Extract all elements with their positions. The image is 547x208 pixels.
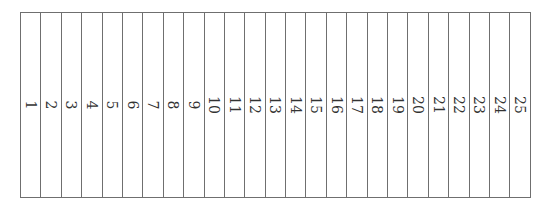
table-cell: 20 <box>408 13 428 198</box>
table-cell: 13 <box>265 13 285 198</box>
column-label: 20 <box>411 96 425 114</box>
numbered-columns-table: 1 2 3 4 5 6 7 8 9 10 11 12 13 14 15 16 1… <box>20 12 531 198</box>
table-cell: 1 <box>21 13 41 198</box>
table-cell: 22 <box>449 13 469 198</box>
table-cell: 24 <box>489 13 509 198</box>
column-label: 11 <box>228 96 242 114</box>
table-cell: 4 <box>82 13 102 198</box>
table-cell: 16 <box>326 13 346 198</box>
table-cell: 3 <box>61 13 81 198</box>
column-label: 22 <box>452 96 466 114</box>
table-cell: 10 <box>204 13 224 198</box>
table-cell: 23 <box>469 13 489 198</box>
column-label: 12 <box>248 96 262 114</box>
column-label: 24 <box>493 96 507 114</box>
table-cell: 12 <box>245 13 265 198</box>
table-row: 1 2 3 4 5 6 7 8 9 10 11 12 13 14 15 16 1… <box>21 13 531 198</box>
column-label: 15 <box>309 96 323 114</box>
column-label: 3 <box>64 101 78 110</box>
column-label: 14 <box>289 96 303 114</box>
table-cell: 17 <box>347 13 367 198</box>
column-label: 21 <box>432 96 446 114</box>
column-label: 10 <box>207 96 221 114</box>
table-cell: 11 <box>224 13 244 198</box>
column-label: 17 <box>350 96 364 114</box>
column-label: 8 <box>166 101 180 110</box>
column-label: 25 <box>513 96 527 114</box>
table-cell: 25 <box>510 13 531 198</box>
column-label: 5 <box>105 101 119 110</box>
table-cell: 2 <box>41 13 61 198</box>
column-label: 9 <box>187 101 201 110</box>
column-label: 18 <box>370 96 384 114</box>
column-label: 19 <box>391 96 405 114</box>
table-cell: 9 <box>184 13 204 198</box>
table-cell: 14 <box>286 13 306 198</box>
column-label: 13 <box>268 96 282 114</box>
table-cell: 18 <box>367 13 387 198</box>
column-label: 6 <box>126 101 140 110</box>
column-label: 23 <box>472 96 486 114</box>
table-cell: 7 <box>143 13 163 198</box>
table-cell: 21 <box>428 13 448 198</box>
column-label: 16 <box>330 96 344 114</box>
table-cell: 19 <box>388 13 408 198</box>
table-cell: 6 <box>122 13 142 198</box>
table-cell: 8 <box>163 13 183 198</box>
column-label: 4 <box>85 101 99 110</box>
page: 1 2 3 4 5 6 7 8 9 10 11 12 13 14 15 16 1… <box>0 0 547 208</box>
column-label: 2 <box>44 101 58 110</box>
table-cell: 15 <box>306 13 326 198</box>
column-label: 7 <box>146 101 160 110</box>
column-label: 1 <box>24 101 38 110</box>
table-cell: 5 <box>102 13 122 198</box>
